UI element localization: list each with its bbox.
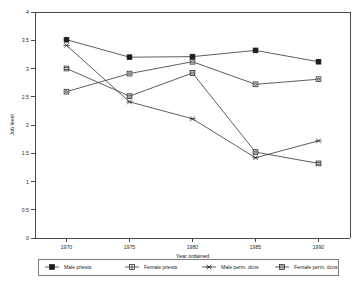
x-tick-label: 1975 xyxy=(124,244,136,250)
x-tick-label: 1980 xyxy=(187,244,199,250)
data-point xyxy=(127,55,132,60)
data-point xyxy=(253,82,258,87)
x-tick-label: 1985 xyxy=(250,244,262,250)
y-tick-label: 3 xyxy=(26,66,29,72)
data-point xyxy=(190,54,195,59)
data-point xyxy=(190,71,195,76)
data-point xyxy=(316,59,321,64)
data-point xyxy=(253,48,258,53)
data-point xyxy=(64,89,69,94)
line-chart-figure: 0 0.5 1 1.5 2 2.5 xyxy=(0,0,363,287)
data-point xyxy=(64,37,69,42)
legend-sample-marker xyxy=(280,265,285,270)
y-tick-label: 3.5 xyxy=(22,37,29,43)
chart-canvas: 0 0.5 1 1.5 2 2.5 xyxy=(0,0,363,287)
y-tick-label: 0 xyxy=(26,235,29,241)
data-point xyxy=(190,59,195,64)
data-point xyxy=(316,77,321,82)
y-tick-label: 1.5 xyxy=(22,150,29,156)
y-tick-label: 4 xyxy=(26,9,29,15)
y-tick-label: 0.5 xyxy=(22,207,29,213)
y-axis-title: Job level xyxy=(9,114,15,135)
data-point xyxy=(64,66,69,71)
x-tick-label: 1970 xyxy=(61,244,73,250)
legend-sample-marker xyxy=(130,265,135,270)
data-point xyxy=(127,71,132,76)
data-point xyxy=(127,94,132,99)
legend-label: Male perm. dcns xyxy=(221,264,259,270)
data-point xyxy=(253,150,258,155)
legend-label: Male priests xyxy=(64,264,92,270)
x-tick-label: 1990 xyxy=(313,244,325,250)
y-tick-label: 1 xyxy=(26,179,29,185)
y-tick-label: 2 xyxy=(26,122,29,128)
legend-label: Female perm. dcns xyxy=(294,264,338,270)
legend-item-1: Female priests xyxy=(125,264,178,270)
legend-item-3: Female perm. dcns xyxy=(275,264,338,270)
legend-label: Female priests xyxy=(144,264,178,270)
legend-sample-marker xyxy=(50,265,55,270)
legend-item-0: Male priests xyxy=(45,264,92,270)
y-tick-label: 2.5 xyxy=(22,94,29,100)
data-point xyxy=(316,161,321,166)
x-axis-title: Year ordained xyxy=(176,253,209,259)
